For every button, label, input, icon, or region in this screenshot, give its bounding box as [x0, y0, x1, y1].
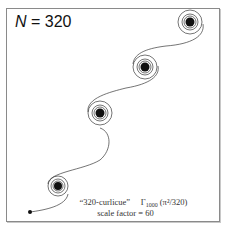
curlicue-name: “320-curlicue” — [80, 197, 131, 207]
gamma-argument: (π²/320) — [158, 197, 188, 207]
caption-scale-factor: scale factor = 60 — [12, 208, 227, 218]
caption-line-1: “320-curlicue” Γ1000 (π²/320) — [20, 197, 227, 208]
curlicue-plot — [0, 0, 227, 228]
